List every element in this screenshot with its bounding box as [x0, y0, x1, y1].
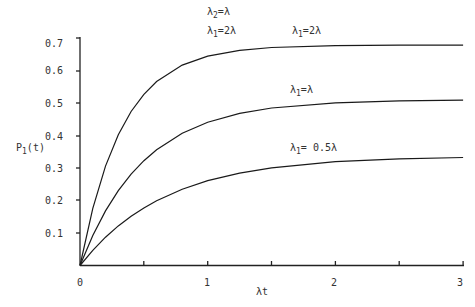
x-axis-label: λt	[256, 286, 268, 297]
x-tick-label: 1	[204, 277, 210, 288]
y-axis-label: P1(t)	[16, 142, 45, 156]
curve-label-2lambda: λ1=2λ	[292, 25, 321, 39]
curve-label-0.5lambda: λ1= 0.5λ	[290, 142, 337, 156]
curve-lambda1-lambda	[80, 100, 463, 265]
y-tick-label: 0.5	[45, 98, 63, 109]
x-tick-label: 3	[457, 277, 463, 288]
curve-lambda1-0.5lambda	[80, 158, 463, 266]
y-tick-label: 0.6	[45, 65, 63, 76]
x-tick-label: 2	[331, 277, 337, 288]
y-tick-label: 0.3	[45, 163, 63, 174]
x-tick-labels: 0 1 2 3	[77, 277, 463, 288]
x-tick-label: 0	[77, 277, 83, 288]
curve-label-lambda: λ1=λ	[290, 84, 313, 98]
y-tick-label: 0.2	[45, 195, 63, 206]
chart: 0.7 0.6 0.5 0.4 0.3 0.2 0.1 0 1 2 3 P1(t…	[0, 0, 475, 307]
curve-lambda1-2lambda	[80, 45, 463, 265]
x-ticks	[144, 261, 463, 266]
annotation-lambda2: λ2=λ	[207, 6, 230, 20]
y-tick-label: 0.1	[45, 228, 63, 239]
y-tick-label: 0.7	[45, 38, 63, 49]
y-tick-label: 0.4	[45, 131, 63, 142]
y-tick-labels: 0.7 0.6 0.5 0.4 0.3 0.2 0.1	[45, 38, 63, 239]
annotation-lambda1-top: λ1=2λ	[207, 25, 236, 39]
